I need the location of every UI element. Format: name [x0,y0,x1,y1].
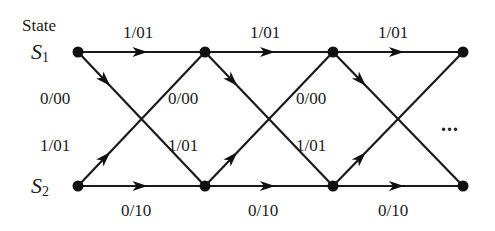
continuation-ellipsis: ... [441,113,459,135]
label-s1-s1-stage3: 1/01 [378,23,408,42]
label-s2-s2-stage1: 0/10 [121,201,151,220]
node-s2-t0 [73,181,84,192]
label-s1-s2-stage1: 0/00 [40,89,70,108]
label-s1-s1-stage1: 1/01 [123,23,153,42]
label-s2-s2-stage2: 0/10 [248,201,278,220]
label-s1-s2-stage2: 0/00 [168,89,198,108]
node-s2-t3 [458,181,469,192]
state-label-s1: S1 [31,39,49,65]
label-s2-s1-stage1: 1/01 [40,136,70,155]
node-s2-t1 [200,181,211,192]
node-s1-t1 [200,47,211,58]
label-s2-s1-stage3: 1/01 [296,136,326,155]
label-s2-s1-stage2: 1/01 [168,136,198,155]
node-s1-t3 [458,47,469,58]
state-label-s2: S2 [31,173,49,199]
label-s1-s2-stage3: 0/00 [296,89,326,108]
node-s1-t0 [73,47,84,58]
node-s2-t2 [328,181,339,192]
label-s1-s1-stage2: 1/01 [250,23,280,42]
node-s1-t2 [328,47,339,58]
trellis-diagram: State S1 S2 1/01 1/01 1/01 0/00 0/00 0/0… [0,0,495,231]
state-header: State [22,16,56,35]
label-s2-s2-stage3: 0/10 [378,201,408,220]
transition-edges [78,52,463,186]
trellis-canvas: State S1 S2 1/01 1/01 1/01 0/00 0/00 0/0… [0,0,495,231]
